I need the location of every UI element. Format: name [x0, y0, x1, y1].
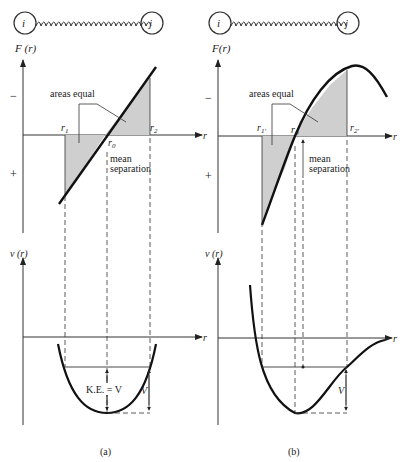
minus-sign-b: −: [205, 91, 212, 105]
force-xlabel-a: r: [203, 130, 207, 141]
r1-label-b: r1′: [257, 122, 266, 135]
r0-label-b: r0: [291, 124, 299, 137]
force-xlabel-b: r: [393, 131, 397, 142]
shaded-area-right-b: [295, 70, 347, 136]
v-label-a: V: [141, 385, 149, 396]
r2-label-b: r2′: [350, 122, 359, 135]
caption-a: (a): [100, 446, 111, 458]
ke-label-a: K.E. = V: [86, 384, 123, 395]
spring-a: i j: [14, 12, 163, 34]
separation-label-a: separation: [110, 163, 151, 174]
caption-b: (b): [288, 446, 300, 458]
mean-point-b: [302, 366, 305, 369]
force-ylabel-a: F (r): [14, 42, 36, 55]
spring-b: i j: [209, 12, 359, 34]
potential-ylabel-b: ν (r): [205, 248, 223, 260]
r1-label-a: r1: [61, 122, 68, 135]
spring-coil-a: [36, 22, 151, 26]
potential-xlabel-a: r: [203, 332, 207, 343]
potential-curve-b: [250, 285, 385, 413]
r0-label-a: r0: [108, 137, 116, 150]
v-label-b: V: [338, 385, 346, 396]
r2-label-a: r2: [150, 122, 158, 135]
plus-sign-b: +: [205, 169, 212, 183]
areas-equal-label-b: areas equal: [249, 88, 294, 99]
potential-ylabel-a: ν (r): [10, 248, 28, 260]
areas-equal-label-a: areas equal: [50, 88, 95, 99]
minus-sign-a: −: [10, 89, 17, 103]
atom-i-label-a: i: [22, 17, 25, 29]
plus-sign-a: +: [10, 167, 17, 181]
potential-xlabel-b: r: [393, 333, 397, 344]
separation-label-b: separation: [309, 163, 350, 174]
panel-a: i j F (r) r − + r1 r2 r0 areas equal mea…: [10, 12, 207, 458]
atom-j-label-b: j: [343, 17, 348, 29]
diagram-canvas: i j F (r) r − + r1 r2 r0 areas equal mea…: [0, 0, 408, 462]
panel-b: i j F(r) r − + r1′ r0 r2′ areas equal me…: [205, 12, 397, 458]
spring-coil-b: [231, 22, 346, 26]
force-ylabel-b: F(r): [211, 42, 231, 55]
atom-i-label-b: i: [217, 17, 220, 29]
